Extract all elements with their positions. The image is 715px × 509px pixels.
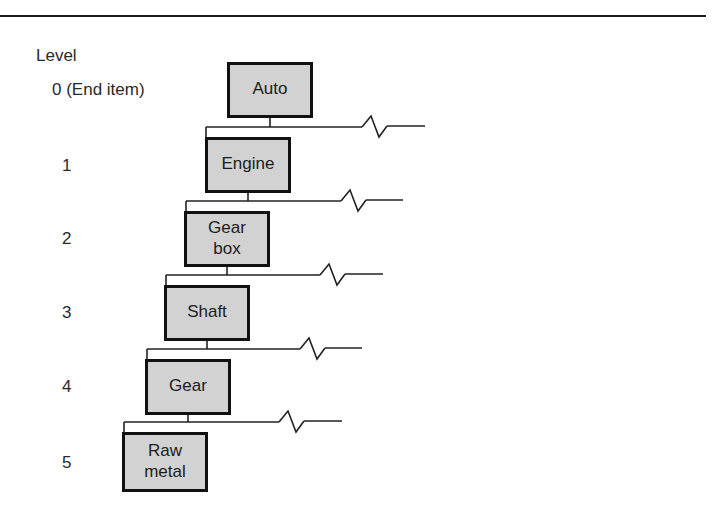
node-label-auto: Auto: [253, 79, 288, 98]
node-engine[interactable]: Engine: [207, 139, 290, 192]
node-label-gear-box-line2: box: [213, 239, 241, 258]
connector-engine-to-gear-box: [186, 190, 403, 211]
node-label-gear: Gear: [169, 376, 207, 395]
bom-tree-svg: AutoEngineGearboxShaftGearRawmetal: [0, 0, 715, 509]
node-label-shaft: Shaft: [187, 302, 227, 321]
connector-shaft-to-gear: [147, 338, 362, 359]
node-label-engine: Engine: [222, 154, 275, 173]
node-gear[interactable]: Gear: [147, 361, 230, 414]
product-structure-figure: Level 0 (End item)12345 AutoEngineGearbo…: [0, 0, 715, 509]
connector-gear-box-to-shaft: [166, 264, 383, 285]
node-label-raw-metal-line2: metal: [144, 462, 186, 481]
connector-auto-to-engine: [206, 116, 425, 137]
node-raw-metal[interactable]: Rawmetal: [124, 434, 207, 491]
node-shaft[interactable]: Shaft: [166, 287, 249, 340]
node-label-raw-metal-line1: Raw: [148, 441, 183, 460]
node-gear-box[interactable]: Gearbox: [186, 213, 269, 266]
node-auto[interactable]: Auto: [229, 64, 312, 117]
node-label-gear-box-line1: Gear: [208, 218, 246, 237]
